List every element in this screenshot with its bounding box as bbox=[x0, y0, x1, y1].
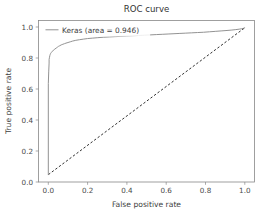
y-tick-label: 0.0 bbox=[22, 178, 34, 187]
chart-title: ROC curve bbox=[124, 4, 170, 14]
y-tick-label: 0.6 bbox=[22, 85, 34, 94]
legend: Keras (area = 0.946) bbox=[42, 23, 150, 37]
y-tick-label: 0.4 bbox=[22, 116, 34, 125]
x-tick-labels: 0.0 0.2 0.4 0.6 0.8 1.0 bbox=[43, 186, 251, 195]
x-tick-label: 1.0 bbox=[239, 186, 251, 195]
x-tick-label: 0.8 bbox=[200, 186, 212, 195]
y-tick-marks bbox=[36, 27, 39, 182]
y-tick-labels: 0.0 0.2 0.4 0.6 0.8 1.0 bbox=[22, 23, 34, 187]
x-tick-label: 0.2 bbox=[82, 186, 93, 195]
x-tick-label: 0.4 bbox=[121, 186, 133, 195]
chart-canvas: 0.0 0.2 0.4 0.6 0.8 1.0 0.0 0.2 0.4 0.6 … bbox=[0, 0, 270, 220]
x-axis-title: False positive rate bbox=[112, 200, 181, 209]
roc-curve-figure: 0.0 0.2 0.4 0.6 0.8 1.0 0.0 0.2 0.4 0.6 … bbox=[0, 0, 270, 220]
y-tick-label: 1.0 bbox=[22, 23, 34, 32]
x-tick-label: 0.6 bbox=[160, 186, 172, 195]
y-tick-label: 0.8 bbox=[22, 54, 34, 63]
y-axis-title: True positive rate bbox=[4, 68, 13, 135]
x-tick-marks bbox=[48, 182, 245, 185]
y-tick-label: 0.2 bbox=[22, 147, 33, 156]
x-tick-label: 0.0 bbox=[43, 186, 55, 195]
legend-label: Keras (area = 0.946) bbox=[62, 26, 139, 35]
